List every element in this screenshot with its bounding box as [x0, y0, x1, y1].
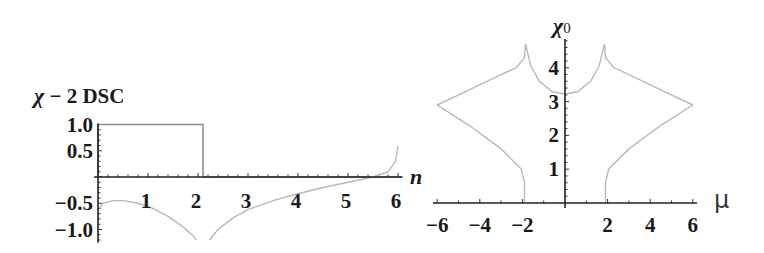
right-plot: χ0 1234−6−4−2246 μ — [426, 13, 729, 237]
x-tick-label: 6 — [391, 189, 402, 213]
x-tick-label: 3 — [241, 189, 252, 213]
x-tick-label: 4 — [645, 213, 656, 237]
left-series — [98, 125, 403, 241]
y-tick-label: 4 — [549, 56, 560, 80]
subscript-zero: 0 — [563, 20, 571, 36]
left-x-axis-title: n — [410, 164, 422, 189]
y-tick-label: 1.0 — [67, 113, 93, 137]
right-upper-line — [604, 44, 692, 105]
y-title-rest: − 2 DSC — [44, 84, 124, 108]
y-tick-label: 1 — [549, 157, 560, 181]
chart-canvas: χ − 2 DSC 1.00.5−0.5−1.0123456 n χ0 1234… — [0, 0, 764, 253]
x-tick-label: 4 — [291, 189, 302, 213]
right-x-axis-title: μ — [714, 186, 729, 214]
y-tick-label: −1.0 — [55, 218, 93, 242]
x-tick-label: 6 — [688, 213, 699, 237]
step-line — [98, 125, 403, 178]
right-lower-line — [606, 105, 693, 203]
left-upper-line — [437, 44, 525, 105]
x-tick-label: 2 — [602, 213, 613, 237]
chi-symbol: χ — [31, 83, 45, 108]
x-tick-label: 1 — [141, 189, 152, 213]
left-y-axis-title: χ − 2 DSC — [31, 83, 124, 108]
y-tick-label: 3 — [549, 90, 560, 114]
left-plot: χ − 2 DSC 1.00.5−0.5−1.0123456 n — [31, 83, 422, 243]
left-ticks — [98, 125, 398, 241]
curve-right-branch-line — [210, 146, 399, 241]
left-lower-line — [437, 105, 524, 203]
x-tick-label: −4 — [469, 213, 492, 237]
y-tick-label: 2 — [549, 123, 560, 147]
x-tick-label: −2 — [511, 213, 533, 237]
x-tick-label: 2 — [191, 189, 202, 213]
x-tick-label: 5 — [341, 189, 352, 213]
right-tick-labels: 1234−6−4−2246 — [426, 56, 698, 237]
y-tick-label: 0.5 — [67, 139, 93, 163]
right-y-axis-title: χ0 — [550, 13, 571, 38]
x-tick-label: −6 — [426, 213, 448, 237]
chi-symbol: χ — [550, 13, 564, 38]
y-tick-label: −0.5 — [55, 191, 93, 215]
